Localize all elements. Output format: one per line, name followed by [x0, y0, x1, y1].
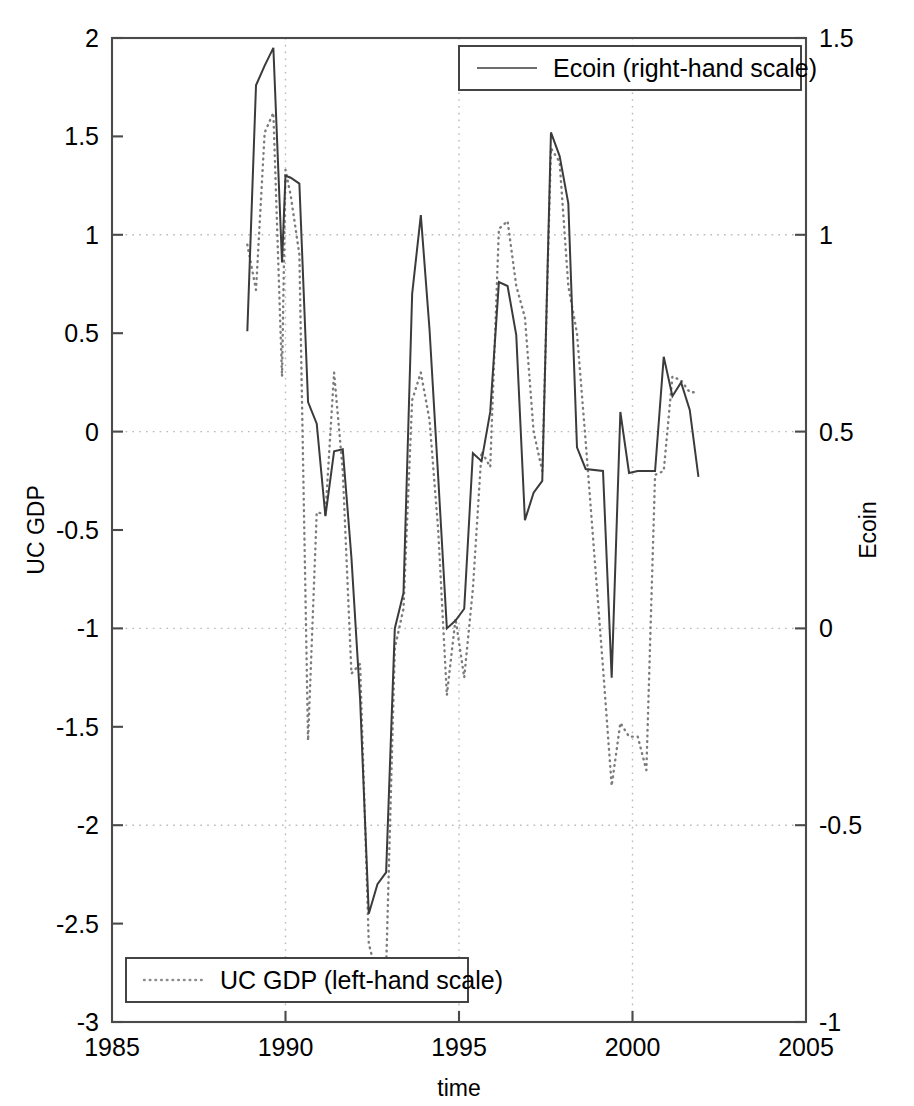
tick-label-left: 2: [85, 24, 99, 52]
tick-label-left: 0: [85, 418, 99, 446]
legend-top[interactable]: Ecoin (right-hand scale): [459, 46, 817, 90]
tick-label-bottom: 1995: [431, 1033, 487, 1061]
tick-label-left: -2.5: [56, 910, 99, 938]
tick-label-bottom: 2000: [605, 1033, 661, 1061]
gridlines: [112, 38, 806, 1022]
tick-label-left: -3: [77, 1008, 99, 1036]
legend-bottom[interactable]: UC GDP (left-hand scale): [126, 958, 503, 1002]
tick-label-left: -1: [77, 614, 99, 642]
tick-label-right: -1: [819, 1008, 841, 1036]
tick-label-left: 1.5: [64, 122, 99, 150]
left-axis-title: UC GDP: [23, 485, 49, 574]
tick-label-left: -2: [77, 811, 99, 839]
tick-label-bottom: 2005: [778, 1033, 834, 1061]
bottom-axis-tick-labels: 19851990199520002005: [84, 1033, 834, 1061]
bottom-axis-ticks: [286, 1011, 633, 1022]
tick-label-right: 0: [819, 614, 833, 642]
series-uc-gdp-line: [247, 113, 698, 979]
tick-label-right: 1.5: [819, 24, 854, 52]
tick-label-left: -0.5: [56, 516, 99, 544]
series-ecoin-line: [247, 48, 698, 914]
series-layer: [247, 48, 698, 979]
left-axis-tick-labels: 21.510.50-0.5-1-1.5-2-2.5-3: [56, 24, 99, 1036]
right-axis-title: Ecoin: [855, 501, 881, 559]
tick-label-bottom: 1990: [258, 1033, 314, 1061]
tick-label-right: -0.5: [819, 811, 862, 839]
left-axis-ticks: [112, 38, 123, 1022]
tick-label-bottom: 1985: [84, 1033, 140, 1061]
tick-label-left: 0.5: [64, 319, 99, 347]
chart-figure: 21.510.50-0.5-1-1.5-2-2.5-3 1.510.50-0.5…: [0, 0, 914, 1106]
x-axis-title: time: [437, 1075, 480, 1101]
line-chart: 21.510.50-0.5-1-1.5-2-2.5-3 1.510.50-0.5…: [0, 0, 914, 1106]
tick-label-right: 1: [819, 221, 833, 249]
right-axis-ticks: [795, 38, 806, 1022]
tick-label-left: -1.5: [56, 713, 99, 741]
legend-top-label: Ecoin (right-hand scale): [553, 54, 817, 82]
legend-bottom-label: UC GDP (left-hand scale): [220, 966, 503, 994]
tick-label-right: 0.5: [819, 418, 854, 446]
tick-label-left: 1: [85, 221, 99, 249]
